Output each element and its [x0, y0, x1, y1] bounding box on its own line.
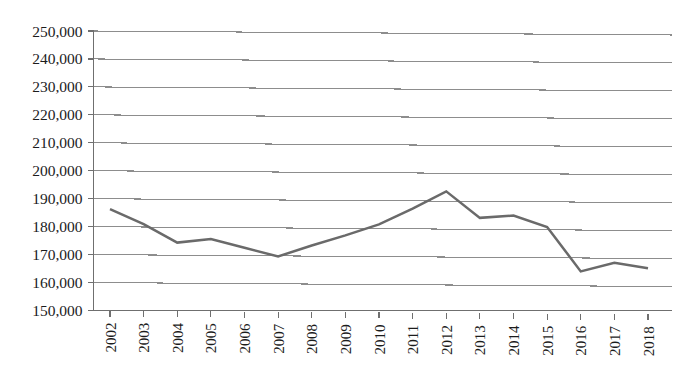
y-axis-tick-label: 230,000: [32, 78, 83, 95]
x-axis-tick-label: 2014: [506, 325, 522, 356]
y-axis-tick-label: 240,000: [32, 50, 83, 67]
y-axis-tick-label: 180,000: [32, 218, 83, 235]
x-axis-tick-labels: 2002200320042005200620072008200920102011…: [103, 323, 657, 357]
x-axis-tick-label: 2007: [271, 323, 287, 354]
x-axis-tick-label: 2016: [573, 325, 589, 356]
y-axis-tick-label: 210,000: [32, 134, 83, 151]
x-axis-tick-label: 2009: [338, 324, 354, 354]
y-axis-tick-label: 160,000: [32, 274, 83, 291]
y-axis-tick-label: 220,000: [32, 106, 83, 123]
x-axis-tick-label: 2015: [540, 326, 556, 356]
chart-canvas: 250,000240,000230,000220,000210,000200,0…: [0, 0, 683, 386]
x-axis-tick-label: 2013: [472, 325, 488, 355]
x-axis-tick-label: 2008: [304, 324, 320, 354]
x-axis-tick-label: 2010: [372, 324, 388, 354]
y-axis-tick-label: 200,000: [32, 162, 83, 179]
y-axis-tick-label: 250,000: [32, 23, 83, 40]
y-axis-tick-label: 170,000: [32, 246, 83, 263]
y-axis-tick-label: 190,000: [32, 190, 83, 207]
x-axis-tick-label: 2018: [641, 326, 657, 356]
x-axis-tick-label: 2003: [136, 323, 152, 353]
y-axis-tick-label: 150,000: [32, 302, 83, 319]
x-axis-tick-label: 2005: [203, 323, 219, 353]
x-axis-tick-label: 2002: [103, 323, 119, 353]
line-chart: 250,000240,000230,000220,000210,000200,0…: [0, 0, 683, 386]
x-axis-tick-label: 2011: [405, 325, 421, 354]
y-axis-tick-labels: 250,000240,000230,000220,000210,000200,0…: [32, 23, 83, 320]
x-axis-tick-label: 2017: [607, 326, 623, 357]
x-axis-tick-label: 2012: [439, 325, 455, 355]
x-axis-tick-label: 2006: [237, 323, 253, 354]
x-axis-tick-label: 2004: [170, 323, 186, 354]
